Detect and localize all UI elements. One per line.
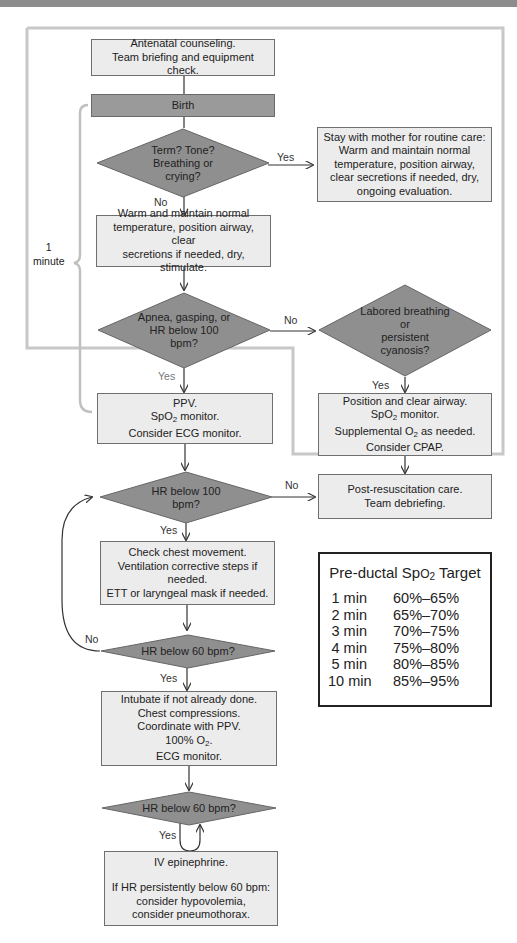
decision-text: crying? — [165, 170, 200, 183]
intubate-line: ECG monitor. — [156, 750, 222, 764]
target-row: 10 min85%–95% — [328, 673, 482, 690]
routine-line: clear secretions if needed, dry, — [330, 171, 479, 185]
target-time: 5 min — [328, 656, 393, 673]
target-time: 10 min — [328, 673, 393, 690]
epi-line: IV epinephrine. — [154, 856, 228, 870]
title-prefix: Pre-ductal Sp — [329, 564, 420, 581]
decision-text: Labored breathing — [360, 305, 449, 318]
spo2-target-title: Pre-ductal SpO2 Target — [328, 564, 482, 582]
decision-text: Breathing or — [153, 157, 213, 170]
decision-text: HR below 100 — [149, 324, 218, 337]
warm-line: temperature, position airway, clear — [101, 221, 266, 248]
check-line: ETT or laryngeal mask if needed. — [107, 587, 269, 601]
decision-apnea: Apnea, gasping, or HR below 100 bpm? — [97, 292, 271, 369]
target-time: 3 min — [328, 623, 393, 640]
no-label: No — [85, 633, 98, 645]
intubate-box: Intubate if not already done. Chest comp… — [101, 691, 277, 766]
minute-number: 1 — [33, 240, 65, 254]
warm-line: secretions if needed, dry, stimulate. — [101, 248, 266, 275]
birth-box: Birth — [91, 94, 275, 117]
epi-line: consider pneumothorax. — [132, 908, 250, 922]
target-row: 4 min75%–80% — [328, 640, 482, 657]
target-time: 1 min — [328, 590, 393, 607]
no-label: No — [284, 314, 297, 326]
decision-labored: Labored breathing or persistent cyanosis… — [318, 284, 492, 377]
target-value: 65%–70% — [393, 607, 459, 624]
check-line: Ventilation corrective steps if — [118, 560, 257, 574]
position-line: Position and clear airway. — [343, 395, 468, 409]
antenatal-line: Antenatal counseling. — [130, 37, 235, 51]
yes-label: Yes — [160, 672, 177, 684]
routine-line: Warm and maintain normal — [339, 144, 471, 158]
position-line: Consider CPAP. — [366, 441, 444, 455]
yes-label: Yes — [160, 524, 177, 536]
decision-text: bpm? — [172, 498, 200, 511]
ppv-box: PPV. SpO2 monitor. Consider ECG monitor. — [97, 393, 273, 444]
decision-text: or — [400, 318, 410, 331]
no-label: No — [285, 479, 298, 491]
target-row: 1 min60%–65% — [328, 590, 482, 607]
intubate-line: 100% O2. — [165, 734, 212, 751]
no-label: No — [154, 196, 167, 208]
position-line: Supplemental O2 as needed. — [335, 425, 476, 442]
decision-hr60-second: HR below 60 bpm? — [101, 791, 277, 826]
target-value: 60%–65% — [393, 590, 459, 607]
routine-care-box: Stay with mother for routine care: Warm … — [317, 127, 492, 202]
yes-label: Yes — [277, 151, 294, 163]
ppv-line: Consider ECG monitor. — [128, 427, 241, 441]
target-time: 2 min — [328, 607, 393, 624]
warm-box: Warm and maintain normal temperature, po… — [96, 215, 271, 267]
warm-line: Warm and maintain normal — [118, 207, 250, 221]
birth-label: Birth — [172, 99, 195, 113]
decision-text: bpm? — [170, 337, 198, 350]
decision-text: HR below 100 — [151, 485, 220, 498]
decision-text: Apnea, gasping, or — [138, 311, 230, 324]
title-o: O — [420, 567, 429, 581]
target-value: 70%–75% — [393, 623, 459, 640]
routine-line: temperature, position airway, — [334, 158, 474, 172]
check-chest-box: Check chest movement. Ventilation correc… — [100, 541, 275, 605]
target-row: 2 min65%–70% — [328, 607, 482, 624]
decision-text: Term? Tone? — [151, 144, 214, 157]
position-airway-box: Position and clear airway. SpO2 monitor.… — [318, 393, 492, 456]
antenatal-box: Antenatal counseling. Team briefing and … — [91, 39, 275, 76]
check-line: needed. — [168, 573, 208, 587]
intubate-line: Intubate if not already done. — [121, 693, 257, 707]
routine-line: Stay with mother for routine care: — [323, 131, 485, 145]
post-resuscitation-box: Post-resuscitation care. Team debriefing… — [318, 474, 492, 519]
intubate-line: Coordinate with PPV. — [137, 720, 241, 734]
decision-term-tone: Term? Tone? Breathing or crying? — [96, 128, 270, 198]
yes-label: Yes — [158, 370, 175, 382]
decision-text: cyanosis? — [381, 344, 430, 357]
decision-hr60-first: HR below 60 bpm? — [100, 634, 276, 669]
spo2-target-table: Pre-ductal SpO2 Target 1 min60%–65% 2 mi… — [318, 552, 492, 707]
decision-text: HR below 60 bpm? — [141, 645, 235, 658]
yes-label: Yes — [372, 379, 389, 391]
target-time: 4 min — [328, 640, 393, 657]
post-line: Post-resuscitation care. — [348, 483, 463, 497]
epi-line: If HR persistently below 60 bpm: — [112, 881, 270, 895]
intubate-line: Chest compressions. — [138, 707, 241, 721]
antenatal-line: Team briefing and equipment check. — [96, 51, 270, 78]
target-row: 3 min70%–75% — [328, 623, 482, 640]
yes-label: Yes — [159, 829, 176, 841]
ppv-line: SpO2 monitor. — [151, 410, 220, 427]
decision-text: persistent — [381, 331, 429, 344]
minute-text: minute — [33, 254, 65, 268]
title-suffix: Target — [435, 564, 481, 581]
one-minute-label: 1 minute — [33, 240, 65, 268]
decision-text: HR below 60 bpm? — [142, 802, 236, 815]
routine-line: ongoing evaluation. — [357, 185, 452, 199]
target-value: 75%–80% — [393, 640, 459, 657]
position-line: SpO2 monitor. — [371, 408, 440, 425]
target-value: 85%–95% — [393, 673, 459, 690]
post-line: Team debriefing. — [364, 497, 445, 511]
target-value: 80%–85% — [393, 656, 459, 673]
ppv-line: PPV. — [173, 397, 197, 411]
check-line: Check chest movement. — [129, 546, 247, 560]
target-row: 5 min80%–85% — [328, 656, 482, 673]
epi-line: consider hypovolemia, — [136, 895, 245, 909]
decision-hr100: HR below 100 bpm? — [99, 471, 273, 524]
epinephrine-box: IV epinephrine. If HR persistently below… — [104, 851, 278, 926]
